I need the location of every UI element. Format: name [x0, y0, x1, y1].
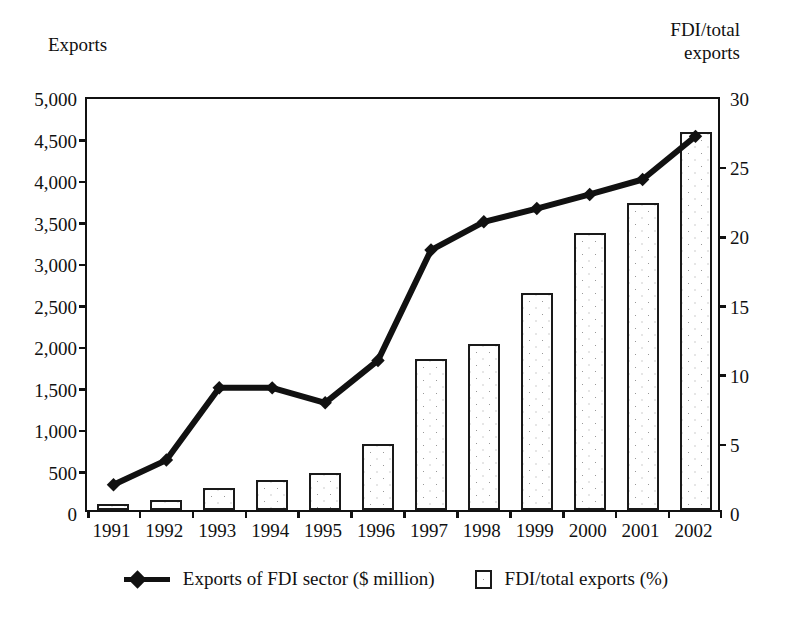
left-axis-tick [79, 264, 87, 267]
right-axis-tick-label: 25 [730, 159, 792, 178]
x-axis-label-1995: 1995 [297, 521, 350, 540]
line-marker-1994 [265, 381, 278, 394]
left-axis-tick-label: 4,500 [5, 132, 77, 151]
left-axis-tick [79, 430, 87, 433]
right-axis-tick-label: 5 [730, 436, 792, 455]
line-marker-2000 [583, 188, 596, 201]
right-axis-tick-label: 10 [730, 367, 792, 386]
left-axis-tick-label: 3,000 [5, 256, 77, 275]
chart-figure: Exports FDI/total exports 05001,0001,500… [0, 0, 792, 626]
legend-item-1: Exports of FDI sector ($ million) [124, 568, 435, 590]
right-axis-tick-label: 20 [730, 228, 792, 247]
left-axis-tick [79, 222, 87, 225]
left-axis-tick [79, 388, 87, 391]
left-axis-tick-label: 4,000 [5, 173, 77, 192]
export-line-path [114, 136, 696, 485]
line-marker-1999 [530, 202, 543, 215]
left-axis-tick [79, 471, 87, 474]
left-axis-tick [79, 139, 87, 142]
left-axis-tick-label: 1,500 [5, 381, 77, 400]
line-series-layer [87, 99, 722, 514]
x-axis-label-1996: 1996 [350, 521, 403, 540]
left-axis-tick-label: 5,000 [5, 90, 77, 109]
legend-label: Exports of FDI sector ($ million) [183, 568, 435, 590]
left-axis-tick-label: 500 [5, 464, 77, 483]
x-axis-label-2000: 2000 [561, 521, 614, 540]
legend-label: FDI/total exports (%) [505, 568, 669, 590]
left-axis-tick [79, 305, 87, 308]
left-axis-tick-label: 2,000 [5, 339, 77, 358]
x-axis-label-1998: 1998 [455, 521, 508, 540]
left-axis-tick-label: 2,500 [5, 298, 77, 317]
right-axis-tick-label: 15 [730, 298, 792, 317]
x-axis-label-2001: 2001 [614, 521, 667, 540]
chart-legend: Exports of FDI sector ($ million)FDI/tot… [0, 568, 792, 590]
line-diamond-marker [124, 572, 170, 586]
x-axis-label-1991: 1991 [85, 521, 138, 540]
legend-item-2: FDI/total exports (%) [475, 568, 669, 590]
right-axis-caption: FDI/total exports [600, 18, 740, 64]
left-axis-tick-label: 1,000 [5, 422, 77, 441]
x-axis-label-1994: 1994 [244, 521, 297, 540]
x-axis-label-1992: 1992 [138, 521, 191, 540]
plot-area: 05001,0001,5002,0002,5003,0003,5004,0004… [85, 97, 720, 512]
left-axis-tick [79, 347, 87, 350]
left-axis-caption: Exports [48, 33, 107, 56]
x-axis-label-1997: 1997 [403, 521, 456, 540]
stippled-square-swatch [475, 570, 492, 589]
left-axis-tick-label: 3,500 [5, 215, 77, 234]
left-axis-tick-label: 0 [5, 505, 77, 524]
right-axis-tick-label: 30 [730, 90, 792, 109]
diamond-marker-icon [128, 570, 146, 588]
x-axis-label-2002: 2002 [667, 521, 720, 540]
x-axis-label-1993: 1993 [191, 521, 244, 540]
x-axis-label-1999: 1999 [508, 521, 561, 540]
left-axis-tick [79, 181, 87, 184]
right-axis-tick-label: 0 [730, 505, 792, 524]
